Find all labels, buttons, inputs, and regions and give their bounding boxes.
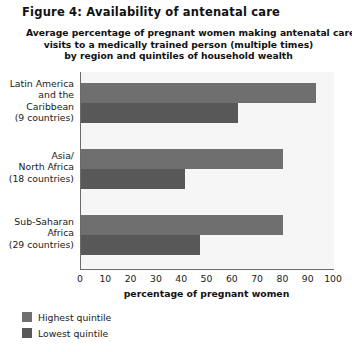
y-label-line: Asia/ bbox=[0, 150, 74, 161]
bar-asia-north-africa-lowest bbox=[81, 169, 185, 189]
chart-title-line-1: Average percentage of pregnant women mak… bbox=[26, 27, 331, 39]
x-axis-title: percentage of pregnant women bbox=[80, 288, 333, 299]
y-label-line: (9 countries) bbox=[0, 112, 74, 123]
x-tick-label: 10 bbox=[99, 273, 111, 284]
legend-label-lowest-quintile: Lowest quintile bbox=[38, 328, 108, 339]
plot-area bbox=[80, 72, 334, 269]
y-label-line: Africa bbox=[0, 227, 74, 238]
y-label-line: Caribbean bbox=[0, 101, 74, 112]
x-tick-label: 20 bbox=[125, 273, 137, 284]
y-label-line: (29 countries) bbox=[0, 239, 74, 250]
y-axis-labels: Latin America and the Caribbean (9 count… bbox=[0, 72, 74, 269]
bar-sub-saharan-africa-highest bbox=[81, 215, 283, 235]
y-label-line: Latin America bbox=[0, 78, 74, 89]
y-label-line: North Africa bbox=[0, 161, 74, 172]
y-label-asia-north-africa: Asia/ North Africa (18 countries) bbox=[0, 150, 74, 184]
x-tick-label: 70 bbox=[251, 273, 263, 284]
x-tick-label: 0 bbox=[77, 273, 83, 284]
chart-title: Average percentage of pregnant women mak… bbox=[26, 27, 331, 62]
legend-swatch-lowest-quintile bbox=[22, 328, 32, 338]
y-label-sub-saharan-africa: Sub-Saharan Africa (29 countries) bbox=[0, 216, 74, 250]
bar-asia-north-africa-highest bbox=[81, 149, 283, 169]
y-label-line: and the bbox=[0, 89, 74, 100]
figure-title: Figure 4: Availability of antenatal care bbox=[22, 5, 280, 19]
x-tick-label: 80 bbox=[276, 273, 288, 284]
x-tick-label: 100 bbox=[324, 273, 342, 284]
chart-title-line-3: by region and quintiles of household wea… bbox=[26, 50, 331, 62]
x-tick-label: 40 bbox=[175, 273, 187, 284]
x-axis-ticks: 0102030405060708090100 bbox=[0, 273, 352, 287]
legend-swatch-highest-quintile bbox=[22, 312, 32, 322]
legend-item-highest-quintile: Highest quintile bbox=[22, 309, 111, 325]
chart-title-line-2: visits to a medically trained person (mu… bbox=[26, 39, 331, 51]
bar-sub-saharan-africa-lowest bbox=[81, 235, 200, 255]
legend-label-highest-quintile: Highest quintile bbox=[38, 312, 111, 323]
x-tick-label: 30 bbox=[150, 273, 162, 284]
bar-latin-america-lowest bbox=[81, 103, 238, 123]
y-label-line: Sub-Saharan bbox=[0, 216, 74, 227]
y-label-line: (18 countries) bbox=[0, 173, 74, 184]
x-tick-label: 90 bbox=[302, 273, 314, 284]
x-axis-line bbox=[80, 269, 334, 270]
x-tick-label: 60 bbox=[226, 273, 238, 284]
bar-latin-america-highest bbox=[81, 83, 316, 103]
x-tick-label: 50 bbox=[201, 273, 213, 284]
y-label-latin-america: Latin America and the Caribbean (9 count… bbox=[0, 78, 74, 124]
legend: Highest quintile Lowest quintile bbox=[22, 309, 111, 341]
legend-item-lowest-quintile: Lowest quintile bbox=[22, 325, 111, 341]
